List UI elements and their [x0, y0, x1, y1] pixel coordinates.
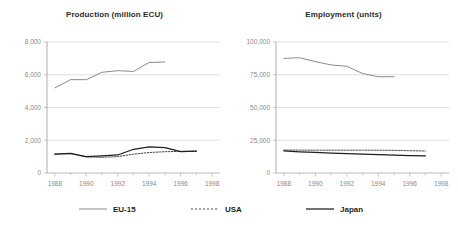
chart-panels: Production (million ECU) 02,0004,0006,00…: [0, 0, 458, 192]
series-line-usa: [284, 150, 426, 151]
chart-panel-production: Production (million ECU) 02,0004,0006,00…: [0, 0, 229, 192]
figure-root: Production (million ECU) 02,0004,0006,00…: [0, 0, 458, 234]
x-tick-label: 1994: [142, 180, 157, 187]
y-tick-label: 100,000: [247, 38, 271, 45]
x-tick-label: 1992: [340, 180, 355, 187]
legend-item-japan[interactable]: Japan: [305, 202, 363, 216]
y-tick-label: 50,000: [250, 104, 270, 111]
plot-area-production: 02,0004,0006,0008,0001988199019921994199…: [0, 0, 229, 192]
y-tick-label: 75,000: [250, 71, 270, 78]
legend-item-eu-15[interactable]: EU-15: [78, 202, 136, 216]
series-line-eu-15: [284, 58, 394, 77]
x-tick-label: 1990: [79, 180, 94, 187]
chart-legend: EU-15USAJapan: [0, 196, 458, 234]
legend-swatch-solid-thick: [305, 205, 335, 213]
x-tick-label: 1990: [308, 180, 323, 187]
x-tick-label: 1992: [111, 180, 126, 187]
legend-label: Japan: [340, 205, 363, 214]
y-tick-label: 2,000: [25, 137, 42, 144]
x-tick-label: 1988: [277, 180, 292, 187]
y-tick-label: 4,000: [25, 104, 42, 111]
plot-area-employment: 025,00050,00075,000100,00019881990199219…: [229, 0, 458, 192]
x-tick-label: 1996: [173, 180, 188, 187]
legend-label: EU-15: [113, 205, 136, 214]
x-tick-label: 1998: [434, 180, 449, 187]
y-tick-label: 0: [37, 169, 41, 176]
x-tick-label: 1988: [48, 180, 63, 187]
legend-items: EU-15USAJapan: [0, 196, 458, 234]
legend-label: USA: [225, 205, 242, 214]
chart-panel-employment: Employment (units) 025,00050,00075,00010…: [229, 0, 458, 192]
x-tick-label: 1994: [371, 180, 386, 187]
legend-swatch-solid-thin: [78, 205, 108, 213]
y-tick-label: 25,000: [250, 137, 270, 144]
x-tick-label: 1998: [205, 180, 220, 187]
y-tick-label: 0: [266, 169, 270, 176]
series-line-japan: [284, 151, 426, 156]
x-tick-label: 1996: [402, 180, 417, 187]
y-tick-label: 8,000: [25, 38, 42, 45]
y-tick-label: 6,000: [25, 71, 42, 78]
legend-item-usa[interactable]: USA: [190, 202, 242, 216]
legend-swatch-dashed: [190, 205, 220, 213]
